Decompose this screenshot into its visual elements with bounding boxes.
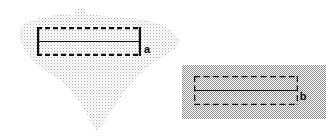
figure-canvas: a b — [0, 0, 333, 139]
panel-b-label: b — [300, 90, 307, 102]
panel-b: b — [182, 65, 326, 119]
panel-a-label: a — [144, 43, 151, 55]
figure-container: a b — [0, 0, 333, 139]
